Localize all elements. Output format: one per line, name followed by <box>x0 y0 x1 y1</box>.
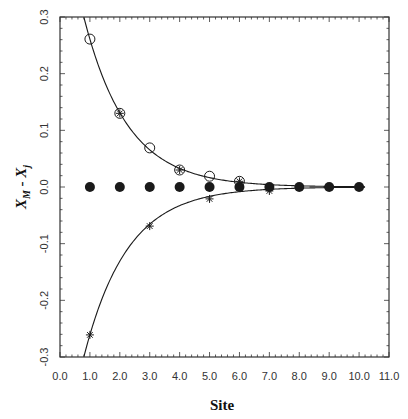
y-title-sep: - <box>13 178 29 191</box>
x-tick-label: 2.0 <box>112 370 127 382</box>
x-tick-label: 9.0 <box>322 370 337 382</box>
star-marker <box>206 195 214 203</box>
star-marker <box>86 331 94 339</box>
filled-circle-marker <box>294 182 304 192</box>
lower-fit-curve <box>84 187 365 356</box>
filled-circle-marker <box>324 182 334 192</box>
open-circle-marker <box>205 171 215 181</box>
y-tick-label: 0.2 <box>38 66 50 81</box>
star-marker <box>235 177 243 185</box>
x-tick-label: 7.0 <box>262 370 277 382</box>
star-marker <box>265 187 273 195</box>
filled-circle-marker <box>175 182 185 192</box>
y-tick-label: -0.2 <box>38 291 50 310</box>
x-tick-label: 3.0 <box>142 370 157 382</box>
star-marker <box>116 109 124 117</box>
y-tick-label: 0.1 <box>38 123 50 138</box>
y-tick-label: -0.1 <box>38 234 50 253</box>
x-tick-label: 8.0 <box>292 370 307 382</box>
y-tick-label: 0.0 <box>38 179 50 194</box>
x-tick-label: 11.0 <box>379 370 400 382</box>
y-tick-labels: -0.3-0.2-0.10.00.10.20.3 <box>38 9 50 366</box>
filled-circle-marker <box>115 182 125 192</box>
star-marker <box>146 222 154 230</box>
x-tick-label: 0.0 <box>52 370 67 382</box>
x-tick-label: 10.0 <box>348 370 369 382</box>
x-tick-label: 5.0 <box>202 370 217 382</box>
filled-circle-marker <box>205 182 215 192</box>
open-circle-marker <box>145 143 155 153</box>
filled-circle-marker <box>145 182 155 192</box>
x-tick-labels: 0.01.02.03.04.05.06.07.08.09.010.011.0 <box>52 370 399 382</box>
x-tick-label: 6.0 <box>232 370 247 382</box>
y-tick-label: -0.3 <box>38 348 50 367</box>
fit-curves <box>84 17 365 356</box>
y-tick-label: 0.3 <box>38 9 50 24</box>
x-tick-label: 1.0 <box>82 370 97 382</box>
star-marker <box>176 166 184 174</box>
upper-fit-curve <box>84 17 365 186</box>
y-axis-title: XM - Xj <box>13 165 32 210</box>
x-axis-title: Site <box>210 397 235 413</box>
chart: 0.01.02.03.04.05.06.07.08.09.010.011.0 -… <box>0 0 408 419</box>
filled-circle-marker <box>354 182 364 192</box>
filled-circle-marker <box>85 182 95 192</box>
x-tick-label: 4.0 <box>172 370 187 382</box>
